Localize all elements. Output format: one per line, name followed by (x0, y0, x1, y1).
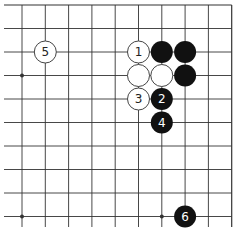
move-number-label: 1 (135, 45, 143, 59)
board-grid (4, 5, 232, 227)
black-stone-move-6: 6 (174, 206, 196, 228)
move-number-label: 5 (41, 45, 49, 59)
go-board[interactable]: 513246 (0, 0, 236, 239)
black-stone-move-2: 2 (151, 88, 173, 110)
black-stone (174, 41, 196, 63)
white-stone-move-3: 3 (128, 88, 150, 110)
star-point (160, 215, 164, 219)
white-stone (151, 65, 173, 87)
white-stone-disc (151, 65, 173, 87)
star-point (20, 74, 24, 78)
black-stone-move-4: 4 (151, 112, 173, 134)
white-stone-move-1: 1 (128, 41, 150, 63)
white-stone (128, 65, 150, 87)
black-stone-disc (174, 65, 196, 87)
black-stone-disc (151, 41, 173, 63)
star-point (20, 215, 24, 219)
white-stone-move-5: 5 (34, 41, 56, 63)
move-number-label: 4 (158, 116, 166, 130)
move-number-label: 6 (181, 210, 189, 224)
white-stone-disc (128, 65, 150, 87)
move-number-label: 3 (135, 92, 143, 106)
black-stone (174, 65, 196, 87)
black-stone (151, 41, 173, 63)
black-stone-disc (174, 41, 196, 63)
move-number-label: 2 (158, 92, 166, 106)
